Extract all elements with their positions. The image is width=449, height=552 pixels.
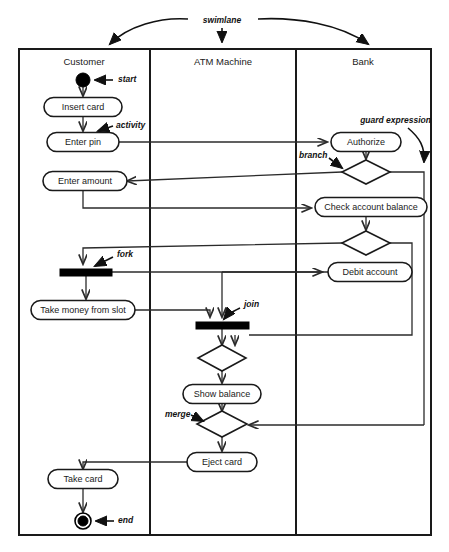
activity-insert-card[interactable]: Insert card [44,98,122,117]
start-node [76,73,90,87]
annotation-label-join: join [243,299,259,309]
activity-enter-amount-label: Enter amount [58,176,113,186]
activity-insert-card-label: Insert card [62,102,105,112]
flow-take-money-to-join [135,310,210,317]
activity-enter-amount[interactable]: Enter amount [43,172,127,191]
annotation-label-branch: branch [299,150,327,160]
swimlane-arrow-right [258,19,368,44]
activity-take-money-label: Take money from slot [40,305,126,315]
activity-debit-account-label: Debit account [342,267,398,277]
activity-take-money-from-slot[interactable]: Take money from slot [31,301,135,320]
annotation-arrow-join [224,308,240,319]
decision-branch-authorize [342,160,390,184]
flow-eject-card-to-take-card [83,462,187,469]
annotation-arrow-activity [98,126,113,131]
merge-before-eject [197,411,247,437]
swimlane-callout: swimlane [110,15,368,44]
activity-debit-account[interactable]: Debit account [328,263,412,282]
activity-authorize[interactable]: Authorize [331,133,401,152]
activity-eject-card[interactable]: Eject card [187,453,257,472]
flow-branch2-right-rail [249,243,412,335]
annotation-label-guard-expression: guard expression [359,115,431,125]
activity-show-balance-label: Show balance [194,389,251,399]
activity-check-account-balance[interactable]: Check account balance [315,198,427,217]
fork-bar [60,269,112,276]
activity-enter-pin[interactable]: Enter pin [47,133,119,152]
activity-authorize-label: Authorize [347,137,385,147]
decision-branch-balance [342,231,390,255]
activity-diagram-canvas: swimlane Customer ATM Machine Bank [0,0,449,552]
annotation-arrow-fork [95,257,113,266]
annotation-label-start: start [118,74,138,84]
activity-check-balance-label: Check account balance [324,202,418,212]
annotation-label-end: end [118,515,134,525]
activity-show-balance[interactable]: Show balance [183,385,261,404]
decision-after-join [198,345,246,371]
swimlane-note-label: swimlane [203,15,242,25]
annotation-arrow-merge [191,415,203,421]
uml-activity-diagram: swimlane Customer ATM Machine Bank [0,0,449,552]
end-node [78,516,88,526]
activity-take-card-label: Take card [63,474,102,484]
annotation-label-fork: fork [117,249,134,259]
annotation-arrow-guard-expression [408,128,424,162]
lane-title-atm: ATM Machine [194,56,252,67]
annotation-label-merge: merge [165,409,191,419]
activity-take-card[interactable]: Take card [48,470,118,489]
activity-eject-card-label: Eject card [202,457,242,467]
annotation-arrow-branch [329,158,342,168]
lane-title-customer: Customer [63,56,104,67]
activity-enter-pin-label: Enter pin [65,137,101,147]
flow-enter-amount-to-check-balance [83,191,311,208]
lane-title-bank: Bank [352,56,374,67]
join-bar [196,322,249,329]
annotation-label-activity: activity [116,120,147,130]
swimlane-arrow-left [110,19,188,44]
flow-branch-to-enter-amount [127,172,342,181]
